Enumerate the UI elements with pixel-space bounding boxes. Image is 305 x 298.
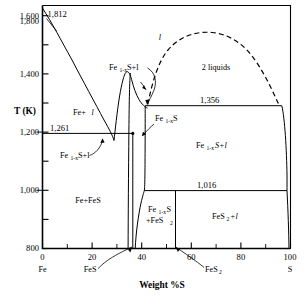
region-label-fe-plus-l-tail: l: [92, 108, 95, 117]
region-label-liquid: l: [159, 33, 162, 42]
x-axis-ticks: [43, 243, 291, 249]
annotation-fe1xs-solid-tail: S: [173, 114, 178, 123]
region-label-fe-plus-l: Fe+ l: [73, 108, 95, 117]
x-tick-label-20: 20: [88, 252, 97, 262]
x-tick-label-40: 40: [137, 252, 146, 262]
curve-s-rich-boundary-lower: [287, 191, 289, 249]
svg-text:1,356: 1,356: [200, 95, 220, 105]
annotation-fe1xs-plus-l-bottom: Fe 1-x S+l: [60, 138, 105, 161]
fe-s-phase-diagram: 800 1,000 1,200 1,400 1,600 x T (K) 0 20…: [0, 0, 305, 298]
endpoint-label-s: S: [288, 265, 293, 274]
compound-marker-fes2: FeS 2: [176, 247, 223, 275]
curve-fe1xs-liquidus-right: [132, 80, 148, 109]
annotation-fe1xs-plus-l-top-main: Fe: [109, 63, 118, 72]
region-label-fe-plus-l-main: Fe+: [73, 108, 86, 117]
region-label-fe1xs-fes2: Fe 1-x S +FeS 2: [146, 205, 173, 226]
annotation-fe1xs-plus-l-top-sub: 1-x: [120, 67, 128, 73]
region-label-fe1xs-fes2-sub: 1-x: [159, 209, 167, 215]
endpoint-labels: Fe S: [38, 265, 292, 274]
x-axis-title: Weight %S: [139, 280, 185, 290]
annotation-fe1xs-plus-l-bottom-tail: S+l: [78, 151, 90, 160]
annotation-fe1xs-plus-l-bottom-main: Fe: [60, 151, 69, 160]
region-label-fes2-plus-l-tail: +l: [230, 212, 239, 221]
y-tick-label-1000: 1,000: [20, 185, 39, 195]
annotation-fe1xs-plus-l-bottom-sub: 1-x: [71, 155, 79, 161]
junction-markers: [131, 132, 134, 135]
svg-text:1,261: 1,261: [50, 123, 69, 133]
label-1356: 1,356: [200, 95, 220, 105]
region-label-fe1xs-plus-l-tail: S+l: [215, 141, 228, 150]
y-axis-title: T (K): [14, 106, 36, 117]
phase-diagram-figure: 800 1,000 1,200 1,400 1,600 x T (K) 0 20…: [0, 0, 305, 298]
label-1261: 1,261: [50, 123, 69, 133]
region-label-two-liquids: 2 liquids: [202, 63, 230, 72]
region-label-fes2-plus-l-main: FeS: [212, 212, 225, 221]
region-label-fes2-plus-l: FeS 2 +l: [212, 212, 239, 222]
region-label-fe-fes: Fe+FeS: [75, 196, 101, 205]
curve-fe-liquidus: [43, 8, 115, 140]
y-tick-label-800: 800: [26, 243, 39, 253]
annotation-fe1xs-solid: Fe 1-x S: [142, 114, 178, 136]
region-label-fe1xs-plus-l-main: Fe: [196, 141, 205, 150]
svg-text:1,812: 1,812: [48, 9, 67, 19]
curve-fe1xs-solidus-right: [135, 106, 145, 249]
region-label-fe1xs-fes2-tail: S: [167, 205, 172, 214]
compound-label-fes: FeS: [84, 265, 97, 274]
endpoint-label-fe: Fe: [38, 265, 47, 274]
region-label-fe1xs-plus-l: Fe 1-x S+l: [196, 141, 228, 151]
region-label-fe1xs-fes2-main: Fe: [148, 205, 157, 214]
svg-text:1,016: 1,016: [197, 180, 217, 190]
compound-label-fes2-main: FeS: [205, 265, 218, 274]
x-tick-label-100: 100: [284, 252, 297, 262]
label-1016: 1,016: [197, 180, 217, 190]
region-label-fe1xs-plus-l-sub: 1-x: [207, 145, 215, 151]
leader-1812: [47, 19, 57, 32]
compound-label-fes2-sub: 2: [219, 269, 222, 275]
y-tick-label-1400: 1,400: [20, 69, 39, 79]
annotation-fe1xs-solid-main: Fe: [155, 114, 164, 123]
x-tick-label-80: 80: [237, 252, 246, 262]
annotation-fe1xs-solid-sub: 1-x: [166, 118, 174, 124]
y-tick-label-1600: 1,600: [20, 11, 39, 21]
curve-s-rich-boundary-upper: [282, 106, 287, 191]
y-tick-labels: 800 1,000 1,200 1,400 1,600: [20, 11, 39, 254]
region-label-fe1xs-fes2-b-main: +FeS: [146, 216, 164, 225]
y-tick-label-1200: 1,200: [20, 127, 39, 137]
label-1812: 1,812: [48, 9, 67, 19]
x-tick-labels: 0 20 40 60 80 100: [40, 252, 296, 262]
region-label-fe1xs-fes2-b-sub: 2: [170, 220, 173, 226]
x-tick-label-0: 0: [40, 252, 44, 262]
curve-fe1xs-solidus-left: [128, 73, 130, 249]
annotation-fe1xs-plus-l-top-tail: S+l: [127, 63, 139, 72]
